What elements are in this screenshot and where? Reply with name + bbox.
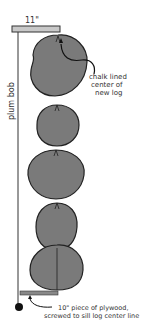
log-4 [28,150,84,199]
top-board [12,26,60,32]
callout-bottom-line1: 10" piece of plywood, [58,304,128,312]
arrow-head [28,295,32,299]
top-measure-label: 11" [25,16,39,25]
callout-top-line2: center of [91,81,123,89]
log-stack-diagram: 11" plum bob chalk lined center of new l… [0,0,160,323]
callout-bottom-line2: screwed to sill log center line [44,312,139,320]
plumb-label: plum bob [7,82,16,120]
log-2 [30,245,83,290]
log-3 [36,203,77,250]
plumb-bob [15,303,23,311]
plywood-piece [20,291,58,295]
callout-top-line1: chalk lined [89,73,127,81]
log-5 [37,105,79,146]
callout-top-line3: new log [95,89,122,97]
callout-arrow-bottom [30,299,52,307]
new-log [31,35,87,96]
